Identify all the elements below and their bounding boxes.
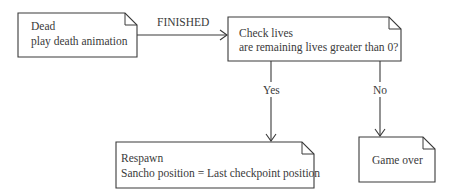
node-dead-action: play death animation	[31, 35, 128, 48]
node-respawn-box	[116, 142, 314, 188]
edge-no: No	[373, 61, 387, 136]
node-game-over: Game over	[359, 137, 435, 182]
node-respawn-action: Sancho position = Last checkpoint positi…	[121, 167, 320, 180]
edge-yes: Yes	[263, 61, 280, 141]
edge-finished-label: FINISHED	[157, 16, 209, 28]
edge-no-label: No	[373, 84, 387, 96]
edge-finished: FINISHED	[137, 16, 227, 40]
node-check-lives-box	[228, 17, 401, 61]
state-diagram: Dead play death animation FINISHED Check…	[0, 0, 449, 196]
edge-yes-label: Yes	[263, 84, 280, 96]
node-check-lives-question: are remaining lives greater than 0?	[239, 41, 398, 54]
node-dead: Dead play death animation	[18, 13, 137, 57]
node-game-over-title: Game over	[372, 154, 423, 166]
node-dead-title: Dead	[31, 20, 56, 32]
node-check-lives: Check lives are remaining lives greater …	[228, 17, 401, 61]
node-check-lives-title: Check lives	[239, 27, 293, 39]
node-respawn: Respawn Sancho position = Last checkpoin…	[116, 142, 320, 188]
node-respawn-title: Respawn	[121, 152, 163, 165]
